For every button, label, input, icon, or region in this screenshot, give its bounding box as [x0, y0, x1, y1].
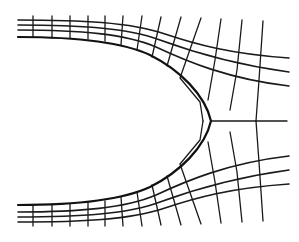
flow-net-diagram — [0, 0, 299, 242]
diagram-canvas — [0, 0, 299, 242]
